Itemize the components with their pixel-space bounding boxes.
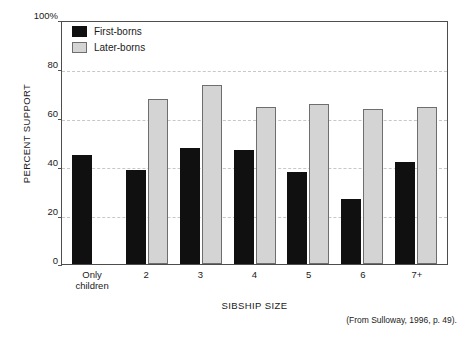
legend-item-first-borns: First-borns [72,26,145,37]
x-tick-label: 3 [173,269,227,297]
x-tick-label: 2 [119,269,173,297]
bar-group [335,22,389,264]
bar-group [389,22,443,264]
bar-first [341,199,361,264]
bar-later [148,99,168,264]
legend-item-later-borns: Later-borns [72,42,145,53]
bar-later [309,104,329,264]
legend-swatch-first-borns [72,26,87,37]
bar-later [256,107,276,264]
x-tick-label: 7+ [390,269,444,297]
source-note: (From Sulloway, 1996, p. 49). [346,315,457,325]
legend-label-first-borns: First-borns [94,27,142,37]
bar-later [363,109,383,264]
bar-first [126,170,146,264]
x-axis-title: SIBSHIP SIZE [61,300,448,311]
y-tick-label-60: 60 [22,109,58,119]
bar-group [174,22,228,264]
bar-first [395,162,415,264]
y-tick-mark-0 [58,265,62,266]
bar-group [66,22,120,264]
legend-swatch-later-borns [72,42,87,53]
bar-group [281,22,335,264]
bar-first [180,148,200,264]
x-tick-label: 4 [227,269,281,297]
x-tick-label: 5 [282,269,336,297]
y-axis-tick-labels: 100% 80 60 40 20 0 [14,0,58,337]
y-tick-label-0: 0 [22,256,58,266]
x-tick-label: 6 [336,269,390,297]
bar-group [228,22,282,264]
y-tick-label-40: 40 [22,158,58,168]
bar-first [234,150,254,264]
y-tick-label-100: 100% [22,11,58,21]
bar-chart-figure: PERCENT SUPPORT 100% 80 60 40 20 0 First… [0,0,465,337]
x-tick-label: Onlychildren [65,269,119,297]
bar-first [287,172,307,264]
bar-first [72,155,92,264]
x-axis-tick-labels: Onlychildren234567+ [61,269,448,297]
bar-later [202,85,222,264]
legend: First-borns Later-borns [72,26,145,58]
legend-label-later-borns: Later-borns [94,43,145,53]
bar-groups [62,22,447,264]
y-tick-label-80: 80 [22,60,58,70]
y-tick-label-20: 20 [22,207,58,217]
bar-group [120,22,174,264]
bar-later [417,107,437,264]
